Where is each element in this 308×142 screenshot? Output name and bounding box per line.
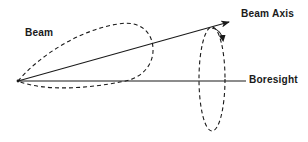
boresight-label: Boresight [249,73,298,85]
beam-axis-label: Beam Axis [241,7,294,19]
beam-label: Beam [25,26,53,38]
rotation-arrow-icon [212,28,223,40]
scan-ellipse [199,27,225,131]
conical-scan-diagram: Beam Beam Axis Boresight [0,0,308,142]
diagram-canvas [0,0,308,142]
apex-point [17,80,20,83]
